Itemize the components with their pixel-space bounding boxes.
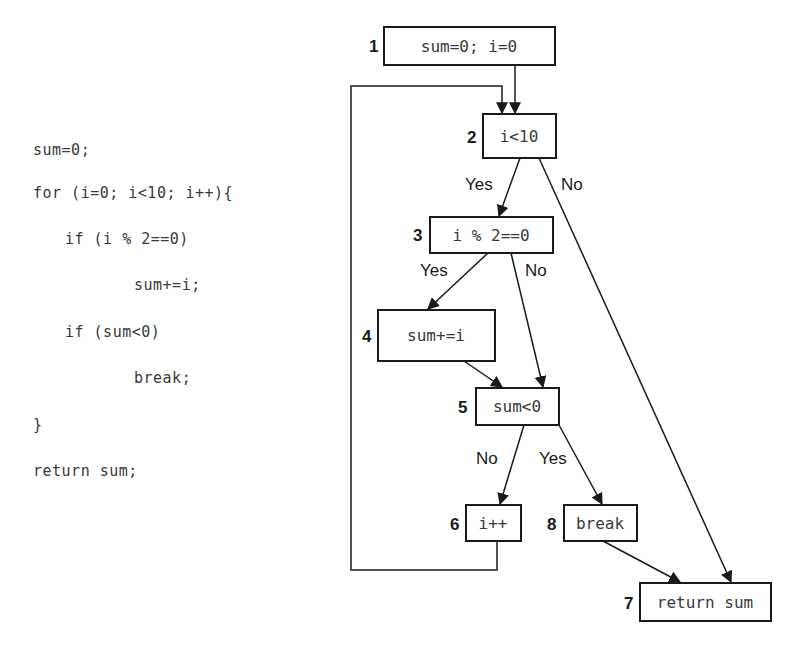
edge-2-3	[499, 158, 520, 216]
node-3: 3 i % 2==0	[413, 217, 553, 253]
node-number: 5	[458, 398, 467, 417]
node-1: 1 sum=0; i=0	[369, 27, 555, 65]
node-label: sum+=i	[407, 326, 465, 345]
node-7: 7 return sum	[624, 583, 771, 621]
node-4: 4 sum+=i	[362, 310, 495, 361]
node-8: 8 break	[547, 505, 637, 541]
edge-label-no: No	[525, 261, 547, 280]
node-label: i<10	[500, 127, 539, 146]
control-flow-graph: Yes No Yes No No Yes 1 sum=0; i=0 2 i<10…	[0, 0, 799, 654]
node-number: 8	[547, 515, 556, 534]
node-label: i % 2==0	[452, 226, 529, 245]
node-number: 3	[413, 226, 422, 245]
node-number: 7	[624, 594, 633, 613]
node-2: 2 i<10	[467, 114, 556, 158]
edge-label-no: No	[476, 449, 498, 468]
edge-4-5	[464, 361, 502, 387]
node-label: return sum	[657, 593, 753, 612]
node-number: 6	[450, 515, 459, 534]
edge-label-yes: Yes	[465, 175, 493, 194]
node-number: 1	[369, 37, 378, 56]
edge-5-6	[500, 425, 524, 504]
node-label: sum=0; i=0	[421, 37, 517, 56]
node-6: 6 i++	[450, 505, 521, 541]
node-5: 5 sum<0	[458, 388, 559, 425]
node-label: break	[576, 514, 625, 533]
edge-label-yes: Yes	[539, 449, 567, 468]
edge-8-7	[603, 541, 680, 582]
node-label: i++	[479, 514, 508, 533]
edge-label-no: No	[561, 175, 583, 194]
edge-label-yes: Yes	[420, 261, 448, 280]
node-label: sum<0	[493, 397, 541, 416]
node-number: 4	[362, 327, 372, 346]
node-number: 2	[467, 128, 476, 147]
